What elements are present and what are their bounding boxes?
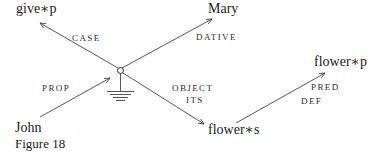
node-give: give∗p (16, 2, 57, 16)
node-john: John (15, 121, 41, 135)
node-flower-p: flower∗p (314, 55, 367, 69)
edge-label-case: CASE (72, 34, 101, 43)
edge-label-object: OBJECT (172, 84, 213, 93)
edge-label-its: ITS (186, 96, 204, 105)
edge-label-def: DEF (301, 97, 322, 106)
edge-case (40, 23, 118, 68)
edge-label-pred: PRED (311, 83, 340, 92)
edge-label-prop: PROP (42, 84, 70, 93)
edge-label-dative: DATIVE (196, 33, 237, 42)
edge-dative (122, 19, 212, 68)
center-node-icon (118, 68, 124, 74)
diagram-edges (0, 0, 374, 152)
node-flower-s: flower∗s (208, 123, 260, 137)
figure-caption: Figure 18 (15, 137, 65, 150)
node-mary: Mary (208, 2, 238, 16)
semantic-network-diagram: give∗p Mary John flower∗s flower∗p CASE … (0, 0, 374, 152)
